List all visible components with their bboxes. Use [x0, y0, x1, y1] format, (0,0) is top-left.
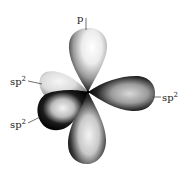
label-sp2-right-base: sp [162, 92, 174, 103]
label-sp2-right-superscript: 2 [174, 91, 178, 99]
label-sp2-right: sp2 [162, 92, 178, 103]
nucleus-point [87, 91, 90, 94]
sp2-lower-left-leader [28, 117, 40, 123]
label-sp2-lower-left-superscript: 2 [22, 118, 26, 126]
orbital-diagram [0, 0, 185, 174]
label-p: p [77, 14, 83, 24]
label-sp2-lower-left-base: sp [10, 119, 22, 130]
sp2-orbital-right-lobe [88, 76, 155, 111]
label-sp2-upper-left-superscript: 2 [22, 75, 26, 83]
label-sp2-lower-left: sp2 [10, 119, 26, 130]
label-sp2-upper-left: sp2 [10, 76, 26, 87]
label-sp2-upper-left-base: sp [10, 76, 22, 87]
